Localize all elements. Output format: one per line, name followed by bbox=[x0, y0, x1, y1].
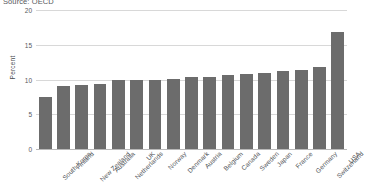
bar[interactable] bbox=[203, 77, 216, 149]
x-axis-labels: South KoreaFinlandNew ZealandAustraliaNe… bbox=[36, 150, 347, 186]
bar[interactable] bbox=[112, 80, 125, 149]
y-tick-label: 0 bbox=[28, 146, 32, 153]
bar[interactable] bbox=[149, 80, 162, 150]
bars-group bbox=[36, 10, 347, 149]
y-tick-label: 15 bbox=[25, 41, 32, 48]
bar[interactable] bbox=[57, 86, 70, 149]
bar[interactable] bbox=[185, 77, 198, 149]
y-tick-label: 10 bbox=[25, 76, 32, 83]
bar[interactable] bbox=[258, 73, 271, 149]
x-tick-label: Belgium bbox=[222, 150, 245, 173]
bar[interactable] bbox=[240, 74, 253, 149]
x-tick-label: Finland bbox=[75, 150, 96, 171]
bar[interactable] bbox=[277, 71, 290, 149]
bar[interactable] bbox=[331, 32, 344, 149]
x-tick-label: France bbox=[294, 150, 314, 170]
bar[interactable] bbox=[94, 84, 107, 149]
bar[interactable] bbox=[75, 85, 88, 149]
source-note: Source: OECD bbox=[3, 0, 54, 6]
bar[interactable] bbox=[222, 75, 235, 149]
bar[interactable] bbox=[313, 67, 326, 149]
plot-area: 05101520 bbox=[36, 10, 347, 149]
y-tick-label: 5 bbox=[28, 111, 32, 118]
bar[interactable] bbox=[167, 79, 180, 149]
y-tick-label: 20 bbox=[25, 7, 32, 14]
bar[interactable] bbox=[130, 80, 143, 150]
bar[interactable] bbox=[39, 97, 52, 149]
bar[interactable] bbox=[295, 70, 308, 149]
x-tick-label: Germany bbox=[314, 150, 339, 175]
y-axis-title: Percent bbox=[9, 40, 16, 96]
